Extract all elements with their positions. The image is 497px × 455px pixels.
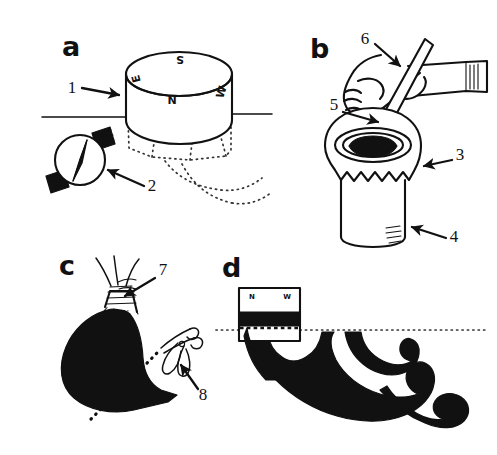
collar-block-fill [240, 312, 299, 326]
callout-4-number: 4 [450, 227, 459, 246]
panel-a-letter: a [62, 31, 80, 62]
figure-container: a S E N W [0, 0, 497, 455]
callout-5-number: 5 [330, 95, 339, 114]
callout-3-number: 3 [456, 145, 465, 164]
panel-d-letter: d [222, 252, 241, 283]
block-label-west: W [283, 293, 291, 301]
collar-label-north: N [167, 94, 176, 107]
callout-8-number: 8 [199, 385, 208, 404]
callout-7-number: 7 [159, 260, 168, 279]
callout-1-number: 1 [68, 78, 77, 97]
callout-6-number: 6 [361, 29, 370, 48]
figure-canvas: a S E N W [0, 0, 497, 455]
vessel-dark-opening [349, 136, 397, 157]
panel-b-letter: b [310, 33, 329, 64]
collar-label-south: S [176, 53, 184, 66]
callout-2-number: 2 [148, 176, 157, 195]
block-label-north: N [249, 293, 255, 301]
panel-c-letter: c [59, 250, 75, 281]
